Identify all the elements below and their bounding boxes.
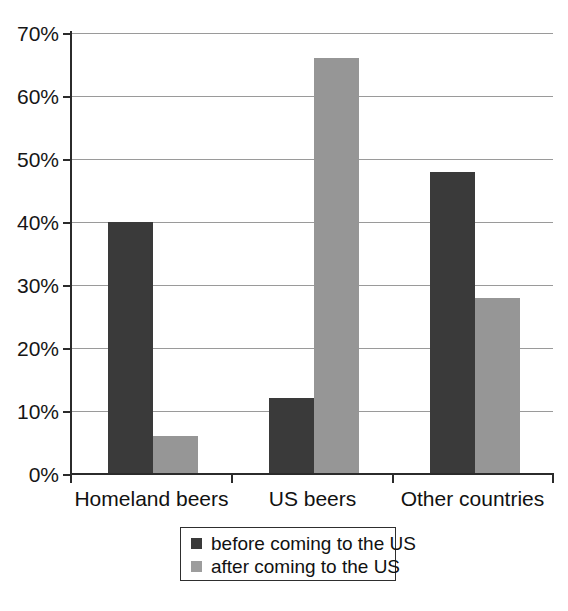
y-axis-label-0: 0% (29, 464, 59, 485)
bar-other-countries-after (475, 298, 520, 474)
x-axis-label-other-countries: Other countries (392, 487, 553, 511)
legend-label-before: before coming to the US (211, 533, 416, 554)
x-tick-mark-1 (231, 474, 233, 483)
bar-us-beers-before (269, 398, 314, 474)
y-tick-mark-40 (63, 222, 71, 224)
x-tick-mark-3 (552, 474, 554, 483)
y-axis-label-60: 60% (17, 86, 59, 107)
y-axis-label-40: 40% (17, 212, 59, 233)
y-tick-mark-10 (63, 411, 71, 413)
gridline-70 (71, 33, 553, 34)
x-tick-mark-2 (392, 474, 394, 483)
legend-label-after: after coming to the US (211, 556, 400, 577)
plot-area (71, 33, 553, 474)
y-tick-mark-60 (63, 96, 71, 98)
bar-us-beers-after (314, 58, 359, 474)
bar-homeland-beers-before (108, 222, 153, 474)
gridline-60 (71, 96, 553, 97)
legend-swatch-icon-after (191, 561, 202, 572)
legend-item-before: before coming to the US (191, 532, 387, 555)
y-axis-label-20: 20% (17, 338, 59, 359)
y-axis-label-30: 30% (17, 275, 59, 296)
y-tick-mark-70 (63, 33, 71, 35)
y-tick-mark-50 (63, 159, 71, 161)
legend-swatch-icon-before (191, 538, 202, 549)
y-tick-mark-30 (63, 285, 71, 287)
bar-homeland-beers-after (153, 436, 198, 474)
x-tick-mark-0 (70, 474, 72, 483)
y-axis-label-70: 70% (17, 23, 59, 44)
y-axis-label-10: 10% (17, 401, 59, 422)
x-axis-line (70, 473, 554, 475)
legend-item-after: after coming to the US (191, 555, 387, 578)
chart-legend: before coming to the US after coming to … (180, 527, 396, 581)
y-tick-mark-20 (63, 348, 71, 350)
bar-chart: 70% 60% 50% 40% 30% 20% 10% 0% Homeland … (0, 0, 568, 611)
x-axis-label-homeland-beers: Homeland beers (71, 487, 232, 511)
x-axis-label-us-beers: US beers (232, 487, 393, 511)
bar-other-countries-before (430, 172, 475, 474)
y-axis-label-50: 50% (17, 149, 59, 170)
gridline-50 (71, 159, 553, 160)
